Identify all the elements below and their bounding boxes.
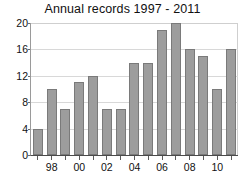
- bar: [102, 109, 112, 155]
- bar: [60, 109, 70, 155]
- bar: [226, 49, 236, 155]
- x-tick-label: [169, 161, 183, 175]
- bar: [116, 109, 126, 155]
- x-tick-mark: [37, 156, 38, 160]
- y-tick-label: 16: [2, 44, 28, 54]
- x-tick-mark: [106, 156, 107, 160]
- bar-slot: [128, 23, 142, 155]
- x-tick-slot: [31, 156, 45, 160]
- x-tick-mark: [175, 156, 176, 160]
- x-tick-slot: [72, 156, 86, 160]
- x-tick-label: [114, 161, 128, 175]
- bar-slot: [45, 23, 59, 155]
- x-tick-mark: [189, 156, 190, 160]
- bar-slot: [183, 23, 197, 155]
- x-axis-labels: 98000204060810: [31, 161, 238, 175]
- bar-slot: [72, 23, 86, 155]
- x-tick-slot: [114, 156, 128, 160]
- x-tick-mark: [120, 156, 121, 160]
- y-tick-label: 12: [2, 71, 28, 81]
- bar-slot: [31, 23, 45, 155]
- bar: [212, 89, 222, 155]
- x-tick-mark: [162, 156, 163, 160]
- x-tick-label: [197, 161, 211, 175]
- x-tick-slot: [155, 156, 169, 160]
- x-tick-slot: [59, 156, 73, 160]
- bar-slot: [197, 23, 211, 155]
- x-tick-slot: [224, 156, 238, 160]
- bar: [33, 129, 43, 155]
- bar-slot: [59, 23, 73, 155]
- bar-slot: [224, 23, 238, 155]
- x-tick-label: [224, 161, 238, 175]
- x-tick-mark: [148, 156, 149, 160]
- bar: [47, 89, 57, 155]
- x-tick-slot: [141, 156, 155, 160]
- x-tick-slot: [100, 156, 114, 160]
- x-axis-ticks: [31, 156, 238, 160]
- x-tick-slot: [86, 156, 100, 160]
- x-tick-slot: [197, 156, 211, 160]
- bar-slot: [169, 23, 183, 155]
- x-tick-label: [86, 161, 100, 175]
- x-tick-mark: [231, 156, 232, 160]
- x-tick-mark: [93, 156, 94, 160]
- x-tick-slot: [210, 156, 224, 160]
- x-tick-mark: [79, 156, 80, 160]
- x-tick-slot: [183, 156, 197, 160]
- bar: [185, 49, 195, 155]
- x-tick-label: [141, 161, 155, 175]
- bar-slot: [114, 23, 128, 155]
- bar: [171, 23, 181, 155]
- x-tick-label: 10: [210, 161, 224, 175]
- bar: [129, 63, 139, 155]
- chart-title: Annual records 1997 - 2011: [0, 2, 245, 17]
- x-tick-label: 06: [155, 161, 169, 175]
- bar: [143, 63, 153, 155]
- x-tick-mark: [203, 156, 204, 160]
- y-axis: 048121620: [0, 0, 28, 179]
- x-tick-mark: [65, 156, 66, 160]
- x-tick-label: 00: [72, 161, 86, 175]
- x-tick-label: 98: [45, 161, 59, 175]
- bar: [88, 76, 98, 155]
- bar-slot: [86, 23, 100, 155]
- x-tick-label: [31, 161, 45, 175]
- x-tick-mark: [217, 156, 218, 160]
- x-tick-label: 08: [183, 161, 197, 175]
- y-tick-label: 20: [2, 18, 28, 28]
- x-tick-label: 04: [128, 161, 142, 175]
- x-tick-label: 02: [100, 161, 114, 175]
- y-tick-label: 0: [2, 150, 28, 160]
- x-tick-mark: [134, 156, 135, 160]
- bar-slot: [141, 23, 155, 155]
- x-tick-slot: [169, 156, 183, 160]
- x-tick-label: [59, 161, 73, 175]
- x-tick-slot: [45, 156, 59, 160]
- x-tick-mark: [51, 156, 52, 160]
- bar-chart-figure: Annual records 1997 - 2011 048121620 980…: [0, 0, 245, 179]
- bar: [74, 82, 84, 155]
- bar-slot: [155, 23, 169, 155]
- bar-series: [31, 23, 238, 155]
- y-tick-label: 4: [2, 124, 28, 134]
- bar: [198, 56, 208, 155]
- x-tick-slot: [128, 156, 142, 160]
- bar-slot: [100, 23, 114, 155]
- bar: [157, 30, 167, 155]
- y-tick-label: 8: [2, 97, 28, 107]
- bar-slot: [210, 23, 224, 155]
